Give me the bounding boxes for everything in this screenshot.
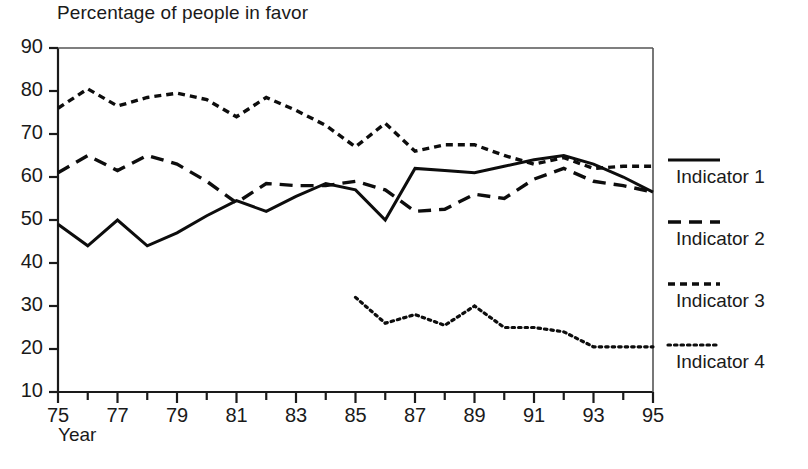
y-tick-label: 90 <box>3 35 43 58</box>
y-tick-label: 10 <box>3 379 43 402</box>
y-tick-label: 40 <box>3 250 43 273</box>
x-axis-label: Year <box>58 424 96 446</box>
x-tick-label: 87 <box>395 404 435 427</box>
y-tick-label: 70 <box>3 121 43 144</box>
x-tick-label: 79 <box>157 404 197 427</box>
x-tick-label: 77 <box>98 404 138 427</box>
series-line-2 <box>58 156 653 212</box>
x-tick-label: 85 <box>336 404 376 427</box>
y-tick-label: 30 <box>3 293 43 316</box>
y-tick-label: 20 <box>3 336 43 359</box>
x-tick-label: 89 <box>455 404 495 427</box>
x-tick-label: 81 <box>217 404 257 427</box>
x-tick-label: 91 <box>514 404 554 427</box>
x-tick-label: 95 <box>633 404 673 427</box>
legend-label-4[interactable]: Indicator 4 <box>676 351 765 373</box>
chart-figure: Percentage of people in favor 1020304050… <box>0 0 808 469</box>
y-tick-label: 80 <box>3 78 43 101</box>
legend-label-1[interactable]: Indicator 1 <box>676 166 765 188</box>
series-line-4 <box>356 297 654 346</box>
x-tick-label: 93 <box>574 404 614 427</box>
x-tick-label: 83 <box>276 404 316 427</box>
y-tick-label: 60 <box>3 164 43 187</box>
series-line-3 <box>58 89 653 169</box>
y-tick-label: 50 <box>3 207 43 230</box>
legend-label-2[interactable]: Indicator 2 <box>676 228 765 250</box>
axes <box>49 48 653 403</box>
data-series-group <box>58 89 653 347</box>
legend-label-3[interactable]: Indicator 3 <box>676 290 765 312</box>
